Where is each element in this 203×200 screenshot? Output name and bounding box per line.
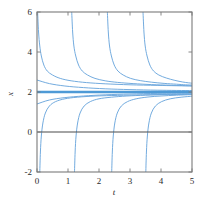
x-tick-label-1: 1 <box>66 176 71 186</box>
x-tick-label-0: 0 <box>35 176 40 186</box>
y-tick-label-0: 0 <box>28 127 33 137</box>
y-tick-label-6: 6 <box>28 7 33 17</box>
x-tick-label-3: 3 <box>128 176 133 186</box>
y-tick-label-2: 2 <box>28 87 33 97</box>
y-axis-label: x <box>5 92 15 97</box>
y-tick-label--2: -2 <box>25 167 33 177</box>
x-tick-label-5: 5 <box>190 176 195 186</box>
y-tick-label-4: 4 <box>28 47 33 57</box>
x-tick-label-2: 2 <box>97 176 102 186</box>
solution-curve-plot: 012345-20246 t x <box>0 0 203 200</box>
x-tick-label-4: 4 <box>159 176 164 186</box>
